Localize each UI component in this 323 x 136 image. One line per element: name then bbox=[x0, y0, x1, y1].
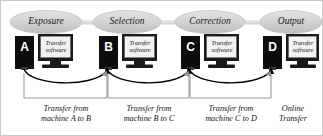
machine-letter-a: A bbox=[15, 41, 34, 53]
machine-letter-c: C bbox=[181, 41, 200, 53]
caption-online-transfer: Online Transfer bbox=[267, 104, 319, 123]
caption-transfer-a-b: Transfer from machine A to B bbox=[21, 104, 111, 123]
screen-c-line2: software bbox=[207, 46, 237, 53]
screen-d: Transfer software bbox=[289, 39, 317, 53]
transfer-arrow-a-b bbox=[24, 69, 107, 83]
screen-c-line1: Transfer bbox=[207, 39, 237, 46]
screen-b: Transfer software bbox=[125, 39, 155, 53]
transfer-arrow-c-d bbox=[189, 69, 271, 83]
screen-d-line2: software bbox=[289, 46, 317, 53]
stage-label-selection: Selection bbox=[93, 16, 161, 26]
machine-letter-b: B bbox=[99, 41, 118, 53]
transfer-brackets bbox=[24, 73, 271, 98]
stage-label-output: Output bbox=[260, 16, 322, 26]
screen-a-line1: Transfer bbox=[41, 39, 71, 46]
screen-b-line1: Transfer bbox=[125, 39, 155, 46]
caption-transfer-c-d: Transfer from machine C to D bbox=[187, 104, 275, 123]
stage-label-correction: Correction bbox=[175, 16, 245, 26]
screen-a-line2: software bbox=[41, 46, 71, 53]
machine-letter-d: D bbox=[263, 41, 282, 53]
stage-label-exposure: Exposure bbox=[10, 16, 82, 26]
screen-d-line1: Transfer bbox=[289, 39, 317, 46]
caption-transfer-b-c: Transfer from machine B to C bbox=[105, 104, 193, 123]
transfer-arrows bbox=[24, 69, 271, 83]
transfer-arrowheads bbox=[104, 67, 274, 74]
screen-c: Transfer software bbox=[207, 39, 237, 53]
screen-b-line2: software bbox=[125, 46, 155, 53]
transfer-arrow-b-c bbox=[107, 69, 189, 83]
diagram-canvas: Exposure Selection Correction Output A B… bbox=[0, 0, 323, 136]
screen-a: Transfer software bbox=[41, 39, 71, 53]
